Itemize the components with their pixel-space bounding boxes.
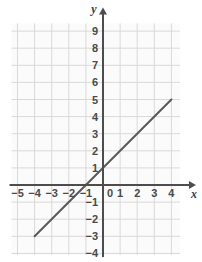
- x-tick-label: 2: [134, 187, 140, 199]
- x-tick-label: −4: [28, 187, 41, 199]
- x-tick-label: 0: [107, 187, 113, 199]
- y-tick-label: 9: [92, 25, 98, 37]
- graph-svg: −5−4−3−2−101234−4−3−2−1123456789xy: [0, 0, 202, 262]
- x-tick-label: −5: [11, 187, 24, 199]
- y-axis-arrowhead: [99, 7, 107, 14]
- coordinate-plane-figure: −5−4−3−2−101234−4−3−2−1123456789xy: [0, 0, 202, 262]
- x-axis-label: x: [190, 187, 197, 201]
- y-tick-label: −1: [85, 196, 98, 208]
- y-axis-label: y: [89, 2, 97, 16]
- y-tick-label: 2: [92, 145, 98, 157]
- x-tick-label: −3: [45, 187, 58, 199]
- y-tick-label: −3: [85, 230, 98, 242]
- y-tick-label: 1: [92, 162, 98, 174]
- y-tick-label: 7: [92, 59, 98, 71]
- y-tick-label: 3: [92, 128, 98, 140]
- y-tick-label: 5: [92, 94, 98, 106]
- x-tick-label: 1: [117, 187, 123, 199]
- x-tick-label: 3: [151, 187, 157, 199]
- y-tick-label: −4: [85, 247, 98, 259]
- x-tick-label: −2: [63, 187, 76, 199]
- y-tick-label: 4: [92, 111, 99, 123]
- y-tick-label: 6: [92, 76, 98, 88]
- x-tick-label: 4: [168, 187, 175, 199]
- y-tick-label: 8: [92, 42, 98, 54]
- y-tick-label: −2: [85, 213, 98, 225]
